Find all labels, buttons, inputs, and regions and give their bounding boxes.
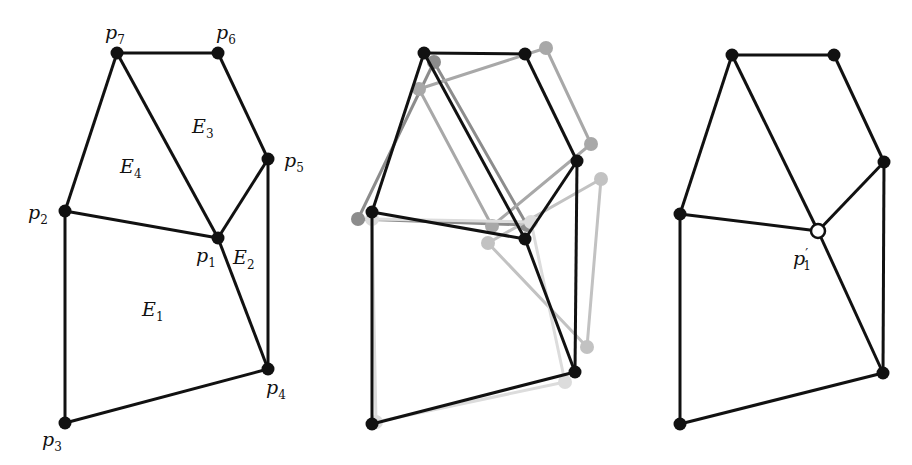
vertex bbox=[366, 418, 379, 431]
label-p2: p2 bbox=[28, 201, 48, 227]
edge bbox=[680, 373, 883, 424]
edge bbox=[65, 53, 117, 211]
face-label-E2: E2 bbox=[232, 246, 255, 272]
face-label-E4: E4 bbox=[119, 155, 142, 181]
vertex-p2 bbox=[674, 208, 687, 221]
vertex bbox=[519, 233, 532, 246]
vertex-p2 bbox=[59, 205, 72, 218]
edge bbox=[65, 369, 268, 423]
vertex-p3 bbox=[674, 418, 687, 431]
overlay-vertex bbox=[580, 340, 594, 354]
face-label-E1: E1 bbox=[141, 298, 164, 324]
vertex-p7 bbox=[726, 49, 739, 62]
edge bbox=[834, 55, 884, 162]
overlay-vertex bbox=[539, 41, 553, 55]
vertex-p4 bbox=[262, 363, 275, 376]
vertex bbox=[366, 206, 379, 219]
vertex bbox=[569, 366, 582, 379]
vertex-p7 bbox=[111, 47, 124, 60]
vertex-p5 bbox=[262, 153, 275, 166]
overlay-vertex bbox=[351, 212, 365, 226]
face-label-E3: E3 bbox=[191, 115, 214, 141]
edge bbox=[732, 55, 818, 231]
overlay-face-E1 bbox=[365, 212, 572, 429]
overlay-vertex bbox=[481, 236, 495, 250]
label-p1-prime: p′1 bbox=[793, 246, 811, 273]
label-p1: p1 bbox=[196, 244, 216, 270]
label-p6: p6 bbox=[216, 21, 236, 47]
edge bbox=[818, 231, 883, 373]
edge bbox=[680, 55, 732, 214]
label-p5: p5 bbox=[284, 149, 304, 175]
overlay-face-E2 bbox=[481, 172, 608, 354]
vertex-p6 bbox=[212, 47, 225, 60]
vertex bbox=[418, 47, 431, 60]
label-p3: p3 bbox=[42, 428, 62, 454]
overlay-vertex bbox=[584, 137, 598, 151]
vertex-p6 bbox=[828, 49, 841, 62]
vertex-p4 bbox=[877, 367, 890, 380]
edge bbox=[218, 159, 268, 238]
vertex bbox=[519, 48, 532, 61]
label-p7: p7 bbox=[105, 21, 125, 47]
vertex-p1_prime bbox=[811, 224, 825, 238]
vertex bbox=[571, 155, 584, 168]
edge bbox=[117, 53, 218, 238]
overlay-vertex bbox=[594, 172, 608, 186]
middle-panel bbox=[351, 41, 608, 431]
edge bbox=[883, 162, 884, 373]
vertex-p5 bbox=[878, 156, 891, 169]
edge bbox=[218, 53, 268, 159]
edge bbox=[680, 214, 818, 231]
vertex-p3 bbox=[59, 417, 72, 430]
label-p4: p4 bbox=[266, 376, 286, 402]
figure-canvas: p1p2p3p4p5p6p7E1E2E3E4p′1 bbox=[0, 0, 912, 465]
vertex-p1 bbox=[212, 232, 225, 245]
right-panel: p′1 bbox=[674, 49, 891, 431]
edge bbox=[818, 162, 884, 231]
left-panel: p1p2p3p4p5p6p7E1E2E3E4 bbox=[28, 21, 304, 454]
original-mesh bbox=[366, 47, 584, 431]
edge bbox=[65, 211, 218, 238]
